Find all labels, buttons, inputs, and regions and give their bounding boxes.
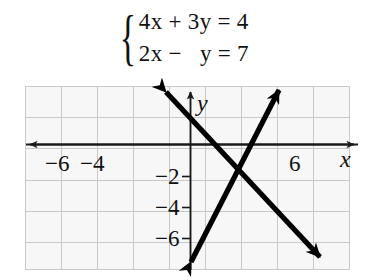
figure-canvas: { 4x + 3y = 4 2x − y = 7 bbox=[0, 0, 366, 280]
y-axis-label: y bbox=[195, 90, 208, 116]
x-axis-label: x bbox=[339, 146, 351, 172]
x-tick-label-6: 6 bbox=[289, 151, 301, 176]
x-tick-label-minus6: −6 bbox=[45, 151, 69, 176]
y-tick-label-minus4: −4 bbox=[155, 195, 180, 220]
x-tick-label-minus4: −4 bbox=[80, 151, 105, 176]
y-tick-label-minus2: −2 bbox=[155, 164, 179, 189]
y-tick-label-minus6: −6 bbox=[155, 226, 179, 251]
coordinate-graph: x y −6 −4 6 −2 −4 −6 bbox=[0, 0, 366, 280]
